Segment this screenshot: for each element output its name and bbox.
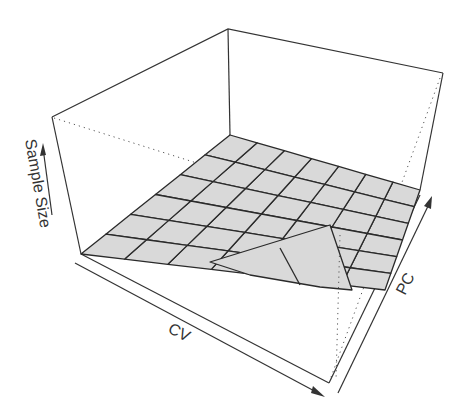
x-axis-arrow	[75, 263, 325, 397]
z-axis-label: Sample Size	[22, 138, 54, 230]
surface-plot: Sample Size CV PC	[0, 0, 468, 418]
x-axis-label: CV	[166, 320, 194, 345]
y-axis-label: PC	[393, 270, 418, 298]
